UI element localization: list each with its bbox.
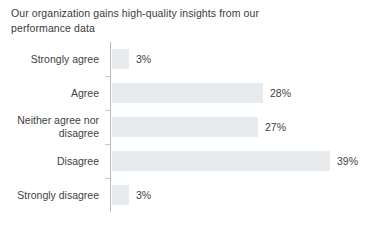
bar-row: Neither agree nor disagree 27% [0,110,371,144]
bar-value-label: 3% [136,189,151,201]
bar-row: Disagree 39% [0,144,371,178]
category-label: Neither agree nor disagree [7,110,99,144]
bar-segment [112,151,330,171]
bar-segment [112,185,129,205]
bar-track: 3% [112,42,151,76]
category-label: Strongly agree [7,42,99,76]
category-label: Strongly disagree [7,178,99,212]
bar-chart-figure: Our organization gains high-quality insi… [0,0,371,232]
bar-track: 3% [112,178,151,212]
bar-track: 27% [112,110,286,144]
bar-segment [112,49,129,69]
bar-row: Strongly agree 3% [0,42,371,76]
bar-value-label: 27% [265,121,286,133]
bar-track: 28% [112,76,291,110]
bar-row: Agree 28% [0,76,371,110]
bar-value-label: 39% [337,155,358,167]
bar-segment [112,83,263,103]
bar-track: 39% [112,144,358,178]
category-label: Agree [7,76,99,110]
bar-value-label: 28% [270,87,291,99]
chart-title: Our organization gains high-quality insi… [11,6,311,36]
bar-row: Strongly disagree 3% [0,178,371,212]
bar-value-label: 3% [136,53,151,65]
category-label: Disagree [7,144,99,178]
plot-area: Strongly agree 3% Agree 28% Neither agre… [0,42,371,212]
bar-segment [112,117,258,137]
